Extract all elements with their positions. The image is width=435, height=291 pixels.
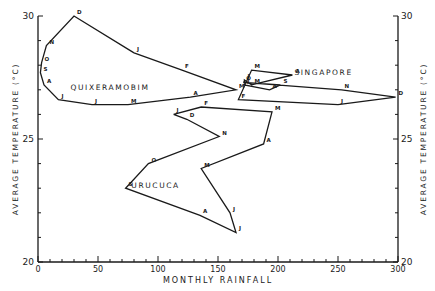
month-label: N	[49, 39, 54, 45]
month-label: M	[255, 63, 260, 69]
x-tick-label: 50	[93, 265, 103, 274]
month-label: A	[193, 90, 198, 96]
series-label-quixeramobim: QUIXERAMOBIM	[71, 83, 150, 92]
series-group: JFMAMJJASONDQUIXERAMOBIMJFMAMJJASONDURUC…	[40, 9, 403, 233]
y-tick-label-left: 25	[23, 134, 34, 144]
month-label: F	[241, 93, 245, 99]
x-tick-label: 150	[210, 265, 225, 274]
month-label: A	[267, 137, 272, 143]
month-label: D	[399, 90, 404, 96]
month-label: F	[185, 63, 189, 69]
month-label: S	[43, 66, 47, 72]
month-label: M	[255, 78, 260, 84]
chart-canvas: 050100150200250300202025253030 JFMAMJJAS…	[0, 0, 435, 291]
axes: 050100150200250300202025253030	[23, 11, 413, 274]
month-label: J	[176, 107, 179, 114]
month-label: J	[60, 93, 63, 100]
month-label: A	[47, 78, 52, 84]
month-label: O	[151, 157, 156, 163]
x-axis-label: MONTHLY RAINFALL	[163, 276, 273, 285]
month-label: A	[273, 83, 278, 89]
month-label: D	[77, 9, 82, 15]
month-label: J	[136, 46, 139, 53]
y-axis-label-right: AVERAGE TEMPERATURE (°C)	[419, 63, 428, 215]
climate-chart: 050100150200250300202025253030 JFMAMJJAS…	[0, 0, 435, 291]
y-tick-label-right: 20	[401, 257, 413, 267]
month-label: O	[45, 56, 50, 62]
month-label: N	[345, 83, 350, 89]
y-tick-label-left: 30	[23, 11, 35, 21]
month-label: J	[94, 98, 97, 105]
x-tick-label: 250	[330, 265, 345, 274]
series-label-urucuca: URUCUCA	[131, 181, 179, 190]
month-label: M	[131, 98, 136, 104]
month-label: F	[204, 100, 208, 106]
y-tick-label-right: 30	[401, 11, 413, 21]
x-tick-label: 0	[35, 265, 40, 274]
series-line-urucuca	[126, 107, 272, 233]
x-tick-label: 100	[150, 265, 165, 274]
y-tick-label-left: 20	[23, 257, 35, 267]
month-label: J	[232, 206, 235, 213]
series-label-singapore: SINGAPORE	[294, 68, 352, 77]
y-tick-label-right: 25	[401, 134, 412, 144]
month-label: N	[222, 130, 227, 136]
month-label: M	[275, 105, 280, 111]
y-axis-label-left: AVERAGE TEMPERATURE (°C)	[11, 63, 20, 215]
month-label: A	[203, 208, 208, 214]
month-label: J	[340, 98, 343, 105]
month-label: O	[246, 75, 251, 81]
x-tick-label: 200	[270, 265, 285, 274]
month-label: J	[238, 225, 241, 232]
month-label: S	[283, 78, 287, 84]
month-label: M	[204, 162, 209, 168]
month-label: D	[190, 112, 195, 118]
